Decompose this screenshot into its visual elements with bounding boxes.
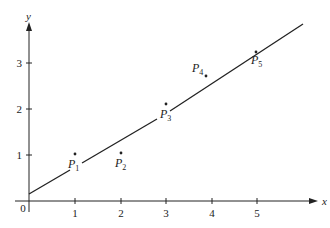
x-tick-label-1: 1 [72, 207, 78, 219]
point-p1 [74, 153, 77, 156]
y-tick-label-1: 1 [17, 149, 23, 161]
point-label-p3: P3 [159, 107, 171, 123]
point-label-p1: P1 [67, 157, 79, 173]
scatter-chart: 1 2 3 4 5 0 1 2 3 x y P1 P2 P3 P4 P5 [0, 0, 330, 228]
x-tick-label-4: 4 [209, 207, 215, 219]
point-p3 [165, 103, 168, 106]
x-axis-label: x [321, 195, 327, 207]
y-tick-label-2: 2 [17, 103, 23, 115]
x-tick-label-5: 5 [254, 207, 260, 219]
y-axis-arrow-icon [26, 22, 32, 31]
point-label-p2: P2 [114, 156, 126, 172]
y-tick-label-3: 3 [17, 57, 23, 69]
y-axis-label: y [25, 10, 31, 22]
x-tick-label-3: 3 [163, 207, 169, 219]
data-points [74, 51, 258, 156]
x-tick-label-2: 2 [118, 207, 124, 219]
point-p2 [120, 152, 123, 155]
point-p4 [205, 75, 208, 78]
origin-label: 0 [20, 202, 26, 214]
point-label-p4: P4 [191, 61, 203, 77]
point-label-p5: P5 [250, 53, 262, 69]
x-axis-arrow-icon [309, 198, 318, 204]
